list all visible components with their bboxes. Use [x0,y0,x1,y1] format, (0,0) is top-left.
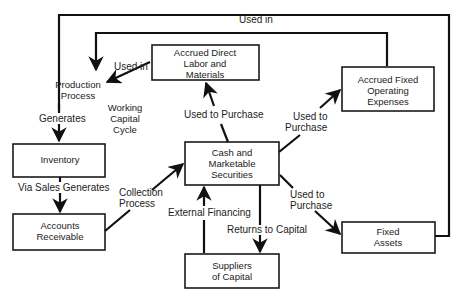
edge-label-external-financing: External Financing [168,207,251,218]
svg-text:Accounts: Accounts [40,220,79,231]
svg-text:Used to: Used to [293,111,328,122]
svg-text:Securities: Securities [211,169,253,180]
svg-text:Marketable: Marketable [209,158,256,169]
node-inventory: Inventory [13,144,105,177]
svg-text:Production: Production [55,79,100,90]
node-suppliers-of-capital: Suppliers of Capital [185,254,279,288]
svg-text:Used to: Used to [290,189,325,200]
svg-text:Receivable: Receivable [37,231,84,242]
svg-text:of Capital: of Capital [212,271,252,282]
edge-label-via-sales-generates: Via Sales Generates [18,182,110,193]
edge-label-used-to-purchase-fixed-exp: Used to Purchase [285,111,328,133]
svg-text:Collection: Collection [119,187,163,198]
node-fixed-assets: Fixed Assets [342,222,435,253]
edge-label-collection-process: Collection Process [119,187,163,209]
edge-cash-to-labor [206,83,214,106]
edge-label-used-in-top: Used in [239,14,273,25]
svg-text:Operating: Operating [367,85,409,96]
edge-label-returns-to-capital: Returns to Capital [227,224,307,235]
svg-text:Assets: Assets [374,237,403,248]
node-accrued-direct-labor: Accrued Direct Labor and Materials [152,45,259,80]
edge-cash-to-fixed-assets-upper [280,175,293,188]
svg-text:Materials: Materials [186,69,225,80]
edge-label-used-in-labor: Used in [114,61,148,72]
svg-text:Purchase: Purchase [285,122,328,133]
working-capital-cycle-diagram: Used in Accrued Direct Labor and Materia… [0,0,459,295]
svg-text:Working: Working [108,102,143,113]
node-accounts-receivable: Accounts Receivable [13,214,105,250]
edge-receivable-to-cash-lower [105,210,130,231]
svg-text:Capital: Capital [110,113,140,124]
edge-cash-to-fixed-exp [320,90,340,108]
edge-cash-to-fixed-assets [315,211,340,234]
edge-cash-to-labor-lower [221,124,228,142]
svg-text:Accrued Fixed: Accrued Fixed [358,74,419,85]
node-production-process: Production Process [55,79,100,101]
node-accrued-fixed-operating-expenses: Accrued Fixed Operating Expenses [342,67,434,111]
svg-text:Accrued Direct: Accrued Direct [174,47,237,58]
svg-text:Process: Process [119,198,155,209]
center-label-working-capital-cycle: Working Capital Cycle [108,102,143,135]
edge-label-used-to-purchase-labor: Used to Purchase [184,109,264,120]
edge-label-used-to-purchase-fixed-assets: Used to Purchase [290,189,333,211]
edge-cash-to-fixed-exp-lower [279,135,300,152]
svg-text:Cycle: Cycle [113,124,137,135]
svg-text:Cash and: Cash and [212,147,253,158]
svg-text:Purchase: Purchase [290,200,333,211]
svg-text:Fixed: Fixed [376,226,399,237]
svg-text:Suppliers: Suppliers [212,260,252,271]
svg-text:Process: Process [61,90,96,101]
svg-text:Labor and: Labor and [184,58,227,69]
node-cash-marketable-securities: Cash and Marketable Securities [185,142,279,185]
svg-text:Inventory: Inventory [40,154,79,165]
svg-text:Expenses: Expenses [367,96,409,107]
edge-label-generates: Generates [39,113,86,124]
